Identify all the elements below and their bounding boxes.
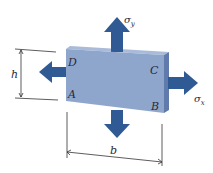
sigma-y-subscript: y [130,20,136,28]
sigma-x-label: σx [194,93,205,107]
dimension-h-label: h [11,68,18,81]
arrow-sigma-y-down [104,110,130,138]
arrow-sigma-x-right [168,71,198,95]
corner-label-a: A [67,88,76,101]
sigma-y-label: σy [124,14,136,28]
corner-label-b: B [150,100,159,113]
arrow-sigma-x-left [39,61,68,83]
sigma-x-subscript: x [201,99,205,107]
stress-element-diagram: D C A B σy σx h b [0,0,213,173]
corner-label-c: C [150,64,159,77]
dimension-b-label: b [110,144,117,157]
corner-label-d: D [67,56,77,69]
plate-front-face [66,49,164,113]
